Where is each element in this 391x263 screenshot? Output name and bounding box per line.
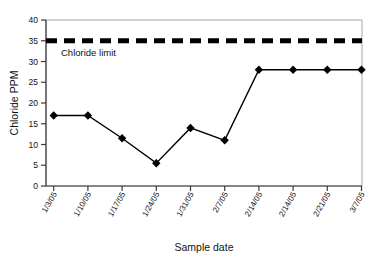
x-axis-title: Sample date [175, 241, 234, 253]
x-tick-label: 3/7/05 [348, 190, 367, 214]
x-tick-label: 2/21/05 [311, 190, 332, 218]
y-axis-title: Chloride PPM [8, 71, 20, 136]
y-tick-label: 25 [29, 77, 39, 87]
x-tick-label: 1/17/05 [106, 190, 127, 218]
chloride-limit-label: Chloride limit [61, 47, 116, 58]
chloride-ppm-line-chart: 0 5 10 15 20 25 30 35 40 1/3/05 1/10/05 [0, 0, 391, 263]
y-axis-ticks [41, 20, 46, 186]
y-tick-label: 10 [29, 140, 39, 150]
y-tick-label: 20 [29, 98, 39, 108]
y-axis-tick-labels: 0 5 10 15 20 25 30 35 40 [29, 15, 39, 191]
x-tick-label: 2/14/05 [243, 190, 264, 218]
x-tick-label: 1/31/05 [175, 190, 196, 218]
y-tick-label: 15 [29, 119, 39, 129]
x-tick-label: 2/14/05 [277, 190, 298, 218]
x-tick-label: 1/3/05 [40, 190, 59, 214]
y-tick-label: 30 [29, 57, 39, 67]
y-tick-label: 5 [33, 160, 38, 170]
x-tick-label: 1/10/05 [72, 190, 93, 218]
x-axis-ticks [54, 186, 362, 191]
y-tick-label: 0 [33, 181, 38, 191]
chart-container: 0 5 10 15 20 25 30 35 40 1/3/05 1/10/05 [0, 0, 391, 263]
y-tick-label: 40 [29, 15, 39, 25]
x-axis-tick-labels: 1/3/05 1/10/05 1/17/05 1/24/05 1/31/05 2… [40, 190, 367, 218]
y-tick-label: 35 [29, 36, 39, 46]
plot-area-frame [46, 20, 362, 186]
x-tick-label: 1/24/05 [140, 190, 161, 218]
x-tick-label: 2/7/05 [211, 190, 230, 214]
